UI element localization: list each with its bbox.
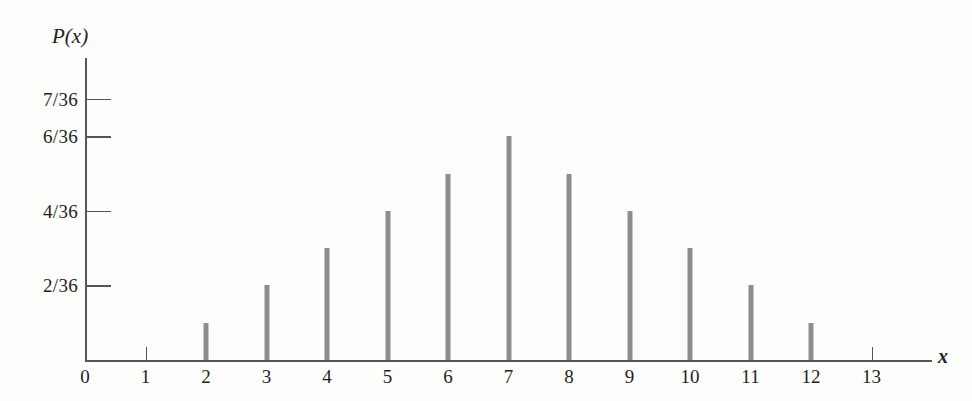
y-axis-title: P(x): [52, 24, 88, 49]
bar: [325, 248, 330, 360]
x-axis-tick-label: 4: [322, 366, 332, 388]
x-axis-tick-label: 1: [141, 366, 151, 388]
x-axis-tick-label: 8: [564, 366, 574, 388]
y-axis-tick-label: 7/36: [43, 89, 78, 111]
y-axis-line: [85, 58, 87, 361]
y-axis-tick: 2/36: [85, 285, 111, 287]
y-axis-tick-label: 2/36: [43, 275, 78, 297]
probability-distribution-chart: P(x) 7/366/364/362/36 012345678910111213…: [0, 0, 972, 401]
bar: [567, 174, 572, 361]
bar: [809, 323, 814, 360]
x-axis-tick-label: 2: [201, 366, 211, 388]
bar: [506, 136, 511, 360]
x-axis-tick-label: 10: [681, 366, 700, 388]
bar: [748, 285, 753, 360]
y-axis-tick-label: 6/36: [43, 126, 78, 148]
bar: [627, 211, 632, 360]
bar: [688, 248, 693, 360]
x-axis-tick-label: 12: [802, 366, 821, 388]
x-axis-tick: [146, 347, 148, 360]
x-axis-tick-label: 6: [443, 366, 453, 388]
x-axis-tick-label: 7: [504, 366, 514, 388]
x-axis-tick-label: 9: [625, 366, 635, 388]
x-axis-line: [85, 360, 932, 362]
bar: [264, 285, 269, 360]
y-axis-title-text: P(x): [52, 24, 88, 48]
y-axis-tick: 4/36: [85, 211, 111, 213]
x-axis-tick-label: 3: [262, 366, 272, 388]
x-axis-tick-label: 0: [80, 366, 90, 388]
bar: [385, 211, 390, 360]
x-axis-tick-label: 5: [383, 366, 393, 388]
y-axis-tick: 6/36: [85, 136, 111, 138]
x-axis-tick-label: 13: [862, 366, 881, 388]
x-axis-title-text: x: [938, 345, 948, 367]
bar: [446, 174, 451, 361]
y-axis-tick: 7/36: [85, 99, 111, 101]
bar: [204, 323, 209, 360]
x-axis-tick-label: 11: [741, 366, 759, 388]
x-axis-tick: [872, 347, 874, 360]
x-axis-title: x: [938, 345, 948, 368]
y-axis-tick-label: 4/36: [43, 201, 78, 223]
